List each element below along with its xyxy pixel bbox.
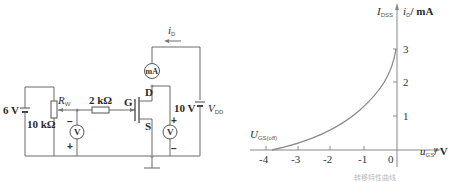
transfer-curve [272,49,396,150]
y-tick-label: 3 [403,43,409,55]
x-tick-label: -3 [291,153,301,165]
battery-vdd-value: 10 V [174,102,196,114]
current-arrow-icon [164,39,169,43]
wire-vd-top [152,86,170,125]
drain-label: D [145,86,153,98]
voltmeter-gate-minus: − [67,116,73,127]
voltmeter-gate-label: V [74,127,81,137]
circuit-diagram: 6 V 10 kΩ RW V − + 2 kΩ G D S [3,24,224,168]
potentiometer-resistance: 10 kΩ [27,118,56,130]
wiper-arrow-icon [58,108,63,112]
resistor-2k-icon [92,107,109,113]
battery-vdd-label: VDD [208,102,224,115]
current-label: iD [168,24,176,37]
x-tick-label: -4 [259,153,269,165]
figure-canvas: 6 V 10 kΩ RW V − + 2 kΩ G D S [0,0,453,182]
x-axis-label: uGS/ V [420,145,448,158]
potentiometer-label: RW [57,94,71,107]
x-tick-label: 0 [388,153,394,165]
y-axis-label: iD/ mA [403,5,433,18]
battery-vdd-icon [195,102,205,156]
resistor-label: 2 kΩ [89,94,112,106]
source-label: S [145,120,151,132]
gate-arrow-icon [130,108,135,112]
ammeter-label: mA [146,67,159,76]
battery-left-label: 6 V [3,104,19,116]
idss-annotation: IDSS [376,5,393,18]
ugs-off-annotation: UGS(off) [250,128,277,141]
y-tick-label: 2 [403,76,409,88]
voltmeter-drain-minus: − [171,143,177,154]
voltmeter-drain-plus: + [171,115,177,126]
wire-top-left [25,87,54,104]
potentiometer-icon [51,101,57,118]
battery-6v-icon [20,104,30,116]
gate-label: G [124,96,133,108]
transfer-characteristic-chart: -4 -3 -2 -1 0 1 2 3 iD/ mA uGS/ V IDSS U… [250,3,448,182]
voltmeter-gate-plus: + [67,141,73,152]
voltmeter-drain-label: V [167,127,174,137]
y-tick-label: 1 [403,110,409,122]
y-axis-arrow-icon [395,3,399,10]
x-tick-label: -2 [323,153,332,165]
chart-caption: 转移特性曲线 [354,173,396,182]
x-tick-label: -1 [358,153,367,165]
